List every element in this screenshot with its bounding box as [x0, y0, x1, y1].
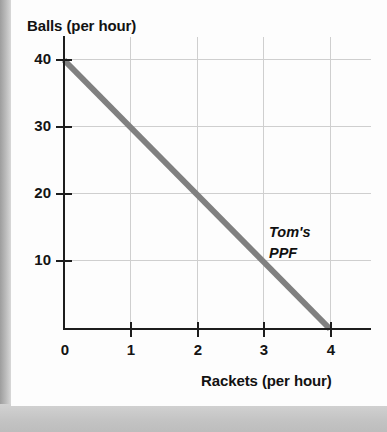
x-tick-2 [197, 322, 199, 337]
y-tick-label-20: 20 [13, 184, 51, 201]
x-axis-title: Rackets (per hour) [201, 372, 332, 389]
y-axis-line [63, 36, 65, 329]
ppf-curve-label-line1: Tom's [269, 222, 311, 243]
page-shadow-bottom [0, 404, 387, 432]
x-axis-line [63, 328, 371, 330]
y-tick-label-40: 40 [13, 50, 51, 67]
y-tick-label-10: 10 [13, 251, 51, 268]
x-tick-label-3: 3 [252, 341, 276, 358]
figure-container: Balls (per hour) [0, 0, 387, 432]
page-shadow-left [0, 0, 11, 432]
ppf-curve-label: Tom's PPF [269, 222, 311, 264]
x-tick-label-0: 0 [53, 341, 77, 358]
x-tick-4 [330, 322, 332, 337]
y-tick-10 [56, 260, 72, 262]
x-tick-label-4: 4 [319, 341, 343, 358]
y-tick-40 [56, 59, 72, 61]
x-tick-label-1: 1 [119, 341, 143, 358]
y-tick-20 [56, 193, 72, 195]
ppf-curve-label-line2: PPF [269, 243, 311, 264]
chart-plot-area: Balls (per hour) [11, 0, 387, 406]
y-tick-label-30: 30 [13, 117, 51, 134]
y-tick-30 [56, 126, 72, 128]
x-tick-1 [130, 322, 132, 337]
page-sheet: Balls (per hour) [11, 0, 387, 406]
x-tick-label-2: 2 [186, 341, 210, 358]
x-tick-3 [263, 322, 265, 337]
